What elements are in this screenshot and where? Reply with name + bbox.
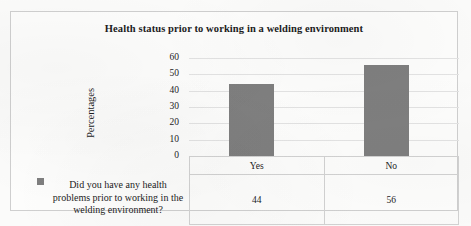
y-axis-title: Percentages <box>85 68 99 158</box>
legend-square-marker-icon <box>37 178 44 185</box>
table-cell-category-yes: Yes <box>190 157 325 175</box>
bar-yes[interactable] <box>229 84 274 156</box>
table-row-categories: Yes No <box>190 157 459 175</box>
y-tick-label-30: 30 <box>170 102 180 112</box>
y-tick-label-50: 50 <box>170 69 180 79</box>
plot-area <box>179 58 459 156</box>
legend-label: Did you have any health problems prior t… <box>51 179 185 217</box>
table-cell-value-yes: 44 <box>190 175 325 225</box>
gridline-60 <box>189 58 459 59</box>
gridlines <box>179 58 459 156</box>
bar-no[interactable] <box>364 65 409 156</box>
y-tick-label-60: 60 <box>170 53 180 63</box>
table-cell-category-no: No <box>324 157 459 175</box>
y-tick-label-20: 20 <box>170 118 180 128</box>
legend: Did you have any health problems prior t… <box>23 173 189 223</box>
y-tick-label-40: 40 <box>170 86 180 96</box>
y-tick-label-10: 10 <box>170 135 180 145</box>
data-table: Yes No 44 56 <box>189 156 459 225</box>
chart-title: Health status prior to working in a weld… <box>11 23 457 34</box>
gridline-50 <box>189 74 459 75</box>
chart-frame: Health status prior to working in a weld… <box>10 11 458 211</box>
y-axis-tick-labels: 0102030405060 <box>151 52 179 162</box>
table-cell-value-no: 56 <box>324 175 459 225</box>
table-row-values: 44 56 <box>190 175 459 225</box>
